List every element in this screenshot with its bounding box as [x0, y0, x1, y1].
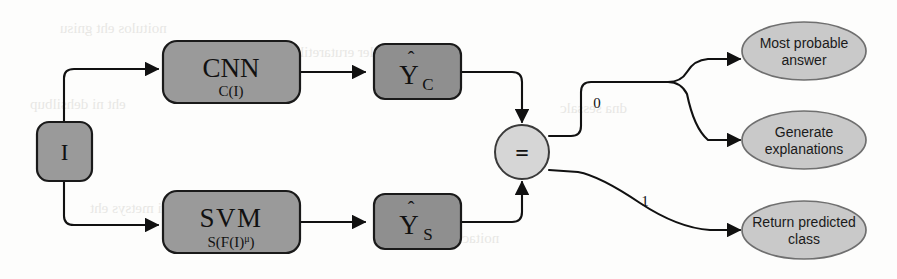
ysvm-hat: ˆ	[408, 198, 415, 220]
node-most-probable-answer[interactable]: Most probable answer	[742, 22, 866, 80]
svm-subtitle-suffix: )	[250, 234, 255, 251]
most-probable-answer-shape	[742, 22, 866, 80]
return-predicted-class-line2: class	[788, 231, 820, 247]
edge-label-one: 1	[641, 193, 649, 209]
return-predicted-class-line1: Return predicted	[752, 214, 856, 230]
node-generate-explanations[interactable]: Generate explanations	[742, 111, 866, 169]
edge-ysvm-to-comparator-stem	[461, 188, 522, 222]
node-prediction-svm[interactable]: Y ˆ S	[374, 194, 461, 249]
svm-subtitle-prefix: S(F(I)	[207, 234, 244, 251]
generate-explanations-shape	[742, 111, 866, 169]
node-equality-comparator[interactable]: =	[495, 125, 549, 179]
cnn-subtitle: C(I)	[219, 83, 244, 100]
node-input-image[interactable]: I	[37, 122, 92, 181]
comparator-symbol: =	[515, 140, 529, 166]
generate-explanations-line2: explanations	[765, 141, 844, 157]
edge-ycnn-to-comparator-stem	[461, 72, 522, 116]
diagram-canvas: 0 1 I CNN C(I) SVM S(F(I)μ) Y ˆ C	[0, 0, 897, 279]
ycnn-hat: ˆ	[408, 48, 415, 70]
input-box-label: I	[61, 140, 69, 165]
cnn-title: CNN	[202, 53, 259, 83]
node-return-predicted-class[interactable]: Return predicted class	[742, 201, 866, 259]
flowchart-diagram: noitulos eht gnisu detaler erutaretil eh…	[0, 0, 897, 279]
edge-fork-to-most-probable-stem	[668, 59, 734, 82]
edge-input-to-svm-stem	[64, 181, 152, 225]
generate-explanations-line1: Generate	[775, 124, 834, 140]
edge-fork-to-generate-explanations-stem	[668, 82, 734, 140]
node-cnn[interactable]: CNN C(I)	[163, 41, 300, 103]
node-svm[interactable]: SVM S(F(I)μ)	[163, 191, 300, 253]
edge-label-zero: 0	[593, 95, 601, 111]
svm-title: SVM	[199, 203, 262, 233]
most-probable-answer-line2: answer	[781, 52, 826, 68]
edge-comparator-branch-zero	[549, 82, 668, 136]
edge-input-to-cnn-stem	[64, 69, 152, 122]
ysvm-subscript: S	[423, 225, 432, 244]
node-prediction-cnn[interactable]: Y ˆ C	[374, 44, 461, 99]
ycnn-subscript: C	[422, 75, 433, 94]
return-predicted-class-shape	[742, 201, 866, 259]
most-probable-answer-line1: Most probable	[760, 35, 849, 51]
